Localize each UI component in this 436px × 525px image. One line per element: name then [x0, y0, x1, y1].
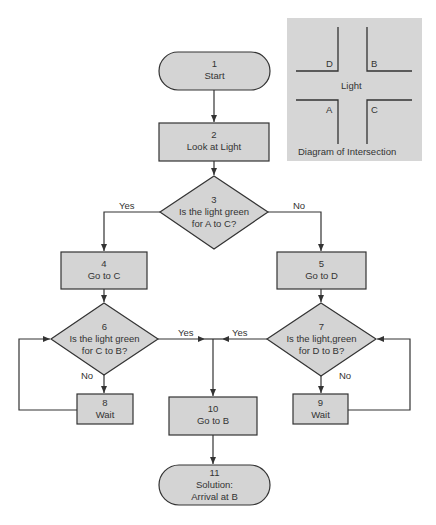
node-10-label: 10Go to B [169, 403, 257, 427]
edge-7-yes-label: Yes [232, 327, 248, 338]
edge-6-no-label: No [81, 370, 93, 381]
node-6-label: 6Is the light greenfor C to B? [51, 321, 158, 357]
corner-b-label: B [371, 58, 377, 69]
node-9-label: 9Wait [293, 397, 348, 421]
edge-3-yes-label: Yes [119, 200, 135, 211]
node-8-label: 8Wait [77, 397, 133, 421]
corner-c-label: C [371, 104, 378, 115]
corner-d-label: D [326, 58, 333, 69]
edge-6-yes-label: Yes [178, 327, 194, 338]
intersection-caption: Diagram of Intersection [298, 146, 396, 157]
node-4-label: 4Go to C [61, 258, 147, 282]
node-1-label: 1Start [159, 58, 270, 82]
edge-7-no-label: No [339, 370, 351, 381]
node-2-label: 2Look at Light [159, 129, 269, 153]
node-3-label: 3Is the light greenfor A to C? [160, 194, 268, 230]
node-5-label: 5Go to D [277, 258, 366, 282]
light-label: Light [341, 80, 362, 91]
edge-3-no-label: No [293, 200, 305, 211]
corner-a-label: A [326, 104, 332, 115]
node-11-label: 11Solution:Arrival at B [159, 467, 270, 503]
node-7-label: 7Is the light,greenfor D to B? [267, 321, 376, 357]
